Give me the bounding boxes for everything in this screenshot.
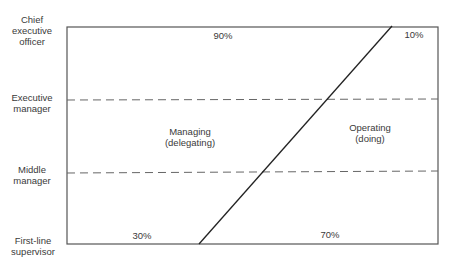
level-label-first-line-supervisor: First-line supervisor <box>4 235 62 257</box>
level-label-line: Executive <box>4 92 60 103</box>
level-label-line: Middle <box>4 164 60 175</box>
level-label-chief-executive-officer: Chief executive officer <box>6 14 58 47</box>
level-label-line: manager <box>4 175 60 186</box>
region-label-line: (delegating) <box>150 137 230 148</box>
region-label-operating: Operating (doing) <box>330 122 410 144</box>
level-label-line: executive <box>6 25 58 36</box>
bottom-managing-percentage: 30% <box>127 230 157 241</box>
region-label-line: Managing <box>150 126 230 137</box>
level-label-line: supervisor <box>4 246 62 257</box>
region-label-line: Operating <box>330 122 410 133</box>
level-label-line: First-line <box>4 235 62 246</box>
region-label-line: (doing) <box>330 133 410 144</box>
level-label-line: officer <box>6 36 58 47</box>
top-managing-percentage: 90% <box>208 30 238 41</box>
level-label-line: Chief <box>6 14 58 25</box>
bottom-operating-percentage: 70% <box>315 229 345 240</box>
middle-manager-dashed-line <box>67 171 438 173</box>
level-label-middle-manager: Middle manager <box>4 164 60 186</box>
executive-manager-dashed-line <box>67 99 438 100</box>
level-label-executive-manager: Executive manager <box>4 92 60 114</box>
top-operating-percentage: 10% <box>401 29 427 40</box>
level-label-line: manager <box>4 103 60 114</box>
region-label-managing: Managing (delegating) <box>150 126 230 148</box>
